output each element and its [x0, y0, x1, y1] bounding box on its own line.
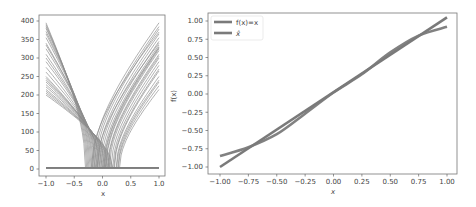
right-x-axis-ticks: −1.00−0.75−0.50−0.250.000.250.500.751.00 [209, 174, 455, 186]
y-tick-label: 150 [21, 110, 34, 118]
y-tick-label: 0.00 [187, 90, 203, 98]
right-y-axis-label: f(x) [170, 90, 178, 102]
x-tick-label: 0.75 [411, 178, 427, 186]
y-tick-label: 200 [21, 91, 34, 99]
right-x-axis-label: x [330, 188, 336, 196]
left-x-axis-ticks: −1.0−0.50.00.51.0 [38, 176, 165, 188]
x-tick-label: −0.5 [66, 180, 83, 188]
x-tick-label: 0.25 [354, 178, 370, 186]
x-tick-label: 1.0 [153, 180, 164, 188]
x-tick-label: −0.25 [294, 178, 315, 186]
left-y-axis-ticks: 050100150200250300350400 [21, 17, 39, 173]
y-tick-label: 0.25 [187, 72, 203, 80]
y-tick-label: −0.50 [182, 127, 203, 135]
legend-label-xhat: x̂ [235, 30, 241, 38]
right-y-axis-ticks: 1.000.750.500.250.00−0.25−0.50−0.75−1.00 [182, 17, 208, 171]
figure: −1.0−0.50.00.51.0 0501001502002503003504… [0, 0, 476, 207]
y-tick-label: 100 [21, 128, 34, 136]
y-tick-label: −0.75 [182, 145, 203, 153]
x-tick-label: −1.0 [38, 180, 55, 188]
x-tick-label: 1.00 [439, 178, 455, 186]
x-tick-label: 0.0 [97, 180, 108, 188]
left-x-axis-label: x [101, 190, 105, 198]
series-xhat-line [220, 27, 447, 156]
y-tick-label: 350 [21, 36, 34, 44]
x-tick-label: −0.50 [266, 178, 287, 186]
y-tick-label: 1.00 [187, 17, 203, 25]
left-plot-panel: −1.0−0.50.00.51.0 0501001502002503003504… [21, 15, 165, 198]
y-tick-label: −1.00 [182, 163, 203, 171]
y-tick-label: 0.75 [187, 36, 203, 44]
x-tick-label: 0.50 [382, 178, 398, 186]
legend: f(x)=x x̂ [211, 16, 263, 40]
right-plot-panel: −1.00−0.75−0.50−0.250.000.250.500.751.00… [170, 13, 457, 196]
x-tick-label: −1.00 [209, 178, 230, 186]
y-tick-label: 300 [21, 54, 34, 62]
y-tick-label: 0.50 [187, 54, 203, 62]
y-tick-label: 400 [21, 17, 34, 25]
y-tick-label: 50 [25, 147, 34, 155]
y-tick-label: −0.25 [182, 109, 203, 117]
y-tick-label: 250 [21, 73, 34, 81]
y-tick-label: 0 [30, 165, 34, 173]
left-plot-curves [46, 23, 159, 168]
legend-label-fx: f(x)=x [236, 19, 258, 27]
x-tick-label: −0.75 [238, 178, 259, 186]
x-tick-label: 0.5 [125, 180, 136, 188]
x-tick-label: 0.00 [326, 178, 342, 186]
